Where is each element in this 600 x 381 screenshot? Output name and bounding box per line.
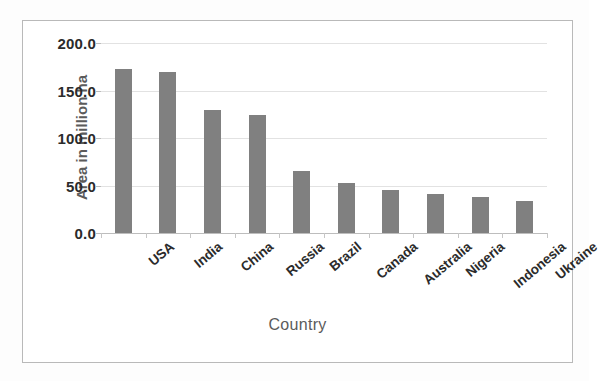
chart-frame: Area in million ha 0.050.0100.0150.0200.…: [22, 20, 573, 363]
x-axis-tick-label: China: [237, 239, 275, 275]
plot-area: [101, 43, 547, 233]
y-axis-tick-label: 0.0: [75, 225, 96, 242]
gridline: [101, 43, 547, 44]
y-axis-tick-label: 50.0: [66, 177, 96, 194]
y-axis-tick-mark: [96, 91, 101, 92]
bar-australia[interactable]: [382, 190, 399, 233]
x-axis-tick-label: India: [191, 239, 225, 271]
bar-canada[interactable]: [338, 183, 355, 233]
x-axis-tick-label: Russia: [283, 239, 327, 279]
x-axis-title: Country: [23, 316, 572, 334]
bar-ukraine[interactable]: [516, 201, 533, 233]
x-axis-tick-mark: [547, 233, 548, 238]
x-axis-tick-label: Brazil: [326, 239, 364, 274]
y-axis-tick-label: 200.0: [57, 35, 96, 52]
x-axis-tick-labels: USAIndiaChinaRussiaBrazilCanadaAustralia…: [101, 235, 547, 315]
y-axis-tick-label: 100.0: [57, 130, 96, 147]
y-axis-tick-mark: [96, 186, 101, 187]
bar-indonesia[interactable]: [472, 197, 489, 233]
y-axis-tick-labels: 0.050.0100.0150.0200.0: [23, 43, 96, 233]
x-axis-tick-label: USA: [146, 239, 177, 269]
bar-usa[interactable]: [115, 69, 132, 233]
y-axis-tick-label: 150.0: [57, 82, 96, 99]
bar-china[interactable]: [204, 110, 221, 234]
bar-nigeria[interactable]: [427, 194, 444, 233]
y-axis-tick-mark: [96, 43, 101, 44]
bar-russia[interactable]: [249, 115, 266, 233]
bar-brazil[interactable]: [293, 171, 310, 233]
x-axis-tick-label: Australia: [420, 239, 474, 288]
y-axis-tick-mark: [96, 138, 101, 139]
bar-india[interactable]: [159, 72, 176, 233]
x-axis-tick-label: Canada: [374, 239, 421, 282]
